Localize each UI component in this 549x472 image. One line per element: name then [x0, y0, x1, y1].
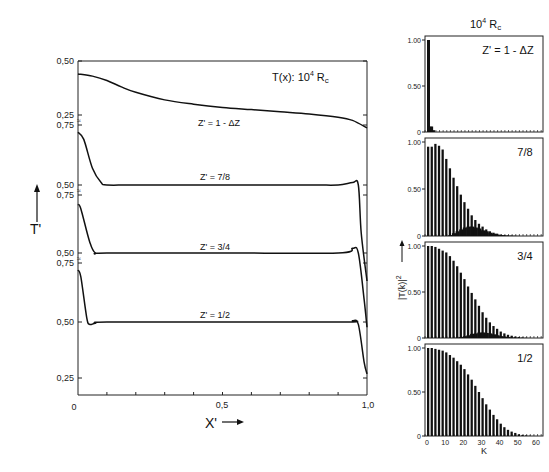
temperature-curve	[78, 132, 367, 281]
secondary-bar	[488, 333, 492, 338]
spectrum-bar	[500, 424, 502, 436]
k-tick-label: 50	[514, 439, 522, 446]
secondary-bar	[485, 333, 489, 338]
y-tick-label: 1.00	[407, 243, 421, 250]
y-tick-label: 0,75	[56, 120, 74, 130]
spectrum-bar	[431, 246, 433, 338]
spectrum-panel: 1.000.500Z' = 1 - ΔZ	[407, 36, 543, 136]
secondary-bar	[495, 235, 499, 236]
y-tick-label: 0,50	[56, 180, 74, 190]
y-tick-label: 0,75	[56, 190, 74, 200]
spectrum-bar	[460, 365, 462, 436]
spectrum-bar	[431, 147, 433, 236]
spectrum-bar	[432, 130, 435, 132]
spectrum-bar	[521, 435, 523, 436]
spectrum-bar	[445, 352, 447, 436]
spectrum-bar	[525, 435, 527, 436]
spectrum-bar	[452, 261, 454, 338]
spectrum-bar	[434, 349, 436, 436]
y-tick-label: 0,50	[56, 317, 74, 327]
y-tick-label: 0.50	[407, 389, 421, 396]
y-tick-label: 0,50	[56, 248, 74, 258]
spectrum-bar	[467, 286, 469, 338]
spectrum-bar	[442, 251, 444, 338]
curve-label-7-8: Z' = 7/8	[200, 172, 230, 182]
curve-label-3-4: Z' = 3/4	[200, 242, 230, 252]
k-tick-label: 10	[441, 439, 449, 446]
spectrum-bar	[442, 150, 444, 236]
spectrum-bar	[445, 159, 447, 236]
spectrum-bar	[474, 299, 476, 338]
spectrum-bar	[427, 348, 429, 436]
y-tick-label: 1.00	[407, 37, 421, 44]
x-tick-0: 0	[71, 402, 76, 412]
secondary-bar	[499, 336, 503, 338]
secondary-bar	[448, 235, 452, 236]
panel-label: 3/4	[517, 250, 532, 262]
spectrum-panel: 1.000.5003/4	[407, 242, 543, 342]
k-tick-label: 40	[496, 439, 504, 446]
y-tick-label: 0,25	[56, 110, 74, 120]
spectrum-bar	[503, 427, 505, 436]
spectrum-bar	[456, 266, 458, 338]
spectrum-bar	[438, 146, 440, 236]
x-axis-arrow-icon	[222, 419, 244, 425]
spectrum-bar	[438, 249, 440, 338]
k-tick-label: 0	[425, 439, 429, 446]
secondary-bar	[459, 337, 463, 338]
spectrum-bar	[442, 351, 444, 436]
secondary-bar	[477, 332, 481, 338]
spectrum-y-axis-label: |T(k)|2	[395, 240, 407, 300]
y-tick-label: 0,25	[56, 373, 74, 383]
secondary-bar	[492, 234, 496, 236]
spectrum-bar	[518, 434, 520, 436]
temperature-curve	[78, 270, 367, 374]
secondary-bar	[495, 335, 499, 338]
secondary-bar	[463, 336, 467, 338]
secondary-bar	[459, 229, 463, 236]
spectrum-bar	[492, 415, 494, 436]
y-axis-label: T'	[30, 221, 41, 237]
panel-label: 7/8	[517, 146, 532, 158]
secondary-bar	[463, 228, 467, 236]
secondary-bar	[485, 231, 489, 236]
secondary-bar	[492, 334, 496, 338]
k-tick-label: 20	[459, 439, 467, 446]
spectrum-bar	[431, 348, 433, 436]
x-axis-label: X'	[205, 415, 217, 431]
spectrum-bar	[471, 293, 473, 338]
spectrum-bar	[456, 361, 458, 436]
spectrum-bar	[463, 279, 465, 338]
secondary-bar	[474, 333, 478, 338]
spectrum-bar	[507, 430, 509, 436]
secondary-bar	[456, 231, 460, 236]
y-axis-arrow-icon	[34, 184, 40, 222]
spectrum-bar	[427, 246, 429, 338]
panel-label: Z' = 1 - ΔZ	[482, 44, 534, 56]
spectrum-bar	[427, 40, 430, 132]
y-tick-label: 0.50	[407, 83, 421, 90]
spectrum-bar	[463, 369, 465, 436]
secondary-bar	[466, 227, 470, 236]
left-panel-temperature-profiles: 0,500,250,750,500,750,500,750,500,25≈≈≈ …	[30, 56, 374, 431]
x-tick-0-5: 0,5	[216, 400, 229, 410]
axis-break-mark: ≈	[77, 117, 81, 124]
left-panel-title: T(x): 104 Rc	[272, 70, 329, 85]
y-tick-label: 1.00	[407, 345, 421, 352]
y-tick-label: 0	[417, 233, 421, 240]
y-tick-label: 1.00	[407, 139, 421, 146]
spectrum-bar	[452, 178, 454, 236]
spectrum-bar	[489, 410, 491, 436]
spectrum-bar	[485, 404, 487, 436]
spectrum-bar	[449, 355, 451, 436]
spectrum-bar	[514, 433, 516, 436]
spectrum-bar	[474, 386, 476, 436]
y-tick-label: 0,50	[56, 56, 74, 66]
panel-label: 1/2	[517, 352, 532, 364]
secondary-bar	[506, 337, 510, 338]
axis-break-mark: ≈	[77, 255, 81, 262]
spectrum-bar	[481, 398, 483, 436]
secondary-bar	[481, 230, 485, 236]
temperature-curve	[78, 204, 367, 327]
spectrum-bar	[449, 168, 451, 236]
